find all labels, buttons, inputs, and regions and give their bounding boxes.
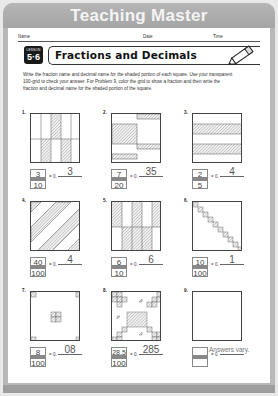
decimal-value: 3 — [58, 167, 82, 177]
lesson-number: 5·6 — [24, 52, 43, 62]
denominator: 10 — [111, 268, 127, 277]
numerator: 40 — [30, 257, 46, 266]
decimal-answer: = 0. 35 — [130, 174, 162, 179]
problem-3: 3. 2 5 = 0. 4 — [184, 110, 264, 200]
problem-4: 4. 40 100 = 0. 4 — [22, 198, 102, 288]
problem-number: 8. — [103, 288, 107, 293]
grid-figure — [193, 202, 242, 251]
decimal-value: 4 — [220, 167, 244, 177]
shaded-square — [111, 113, 161, 163]
problem-number: 6. — [184, 198, 188, 203]
numerator: 7 — [111, 169, 127, 178]
problem-number: 2. — [103, 110, 107, 115]
lesson-badge: LESSON 5·6 — [24, 46, 43, 64]
problem-number: 4. — [22, 198, 26, 203]
problem-9: 9. Answers vary. = 0. — [184, 288, 264, 378]
decimal-value: 4 — [58, 255, 82, 265]
denominator: 100 — [111, 358, 127, 367]
problem-8: 8. 28.5 — [103, 288, 183, 378]
grid-figure — [31, 114, 80, 163]
date-label: Date — [143, 34, 153, 39]
bottom-bar — [3, 385, 275, 393]
shaded-square — [30, 291, 80, 341]
grid-figure — [31, 292, 80, 341]
lesson-label: LESSON — [24, 48, 43, 52]
grid-figure — [193, 114, 242, 163]
decimal-answer: = 0. 1 — [211, 262, 243, 267]
decimal-answer: = 0. — [211, 352, 243, 357]
decimal-value: 35 — [139, 167, 163, 177]
grid-figure — [112, 202, 161, 251]
title-box: Fractions and Decimals — [48, 46, 260, 65]
name-date-time-line: Name Date Time — [18, 33, 260, 42]
problem-number: 5. — [103, 198, 107, 203]
numerator: 8 — [30, 347, 46, 356]
decimal-answer: = 0. 3 — [49, 174, 81, 179]
decimal-answer: = 0. 4 — [49, 262, 81, 267]
denominator: 10 — [30, 180, 46, 189]
problem-number: 1. — [22, 110, 26, 115]
problem-7: 7. 8 100 = 0. 08 — [22, 288, 102, 378]
problem-number: 7. — [22, 288, 26, 293]
problem-6: 6. 10 100 = 0. 1 — [184, 198, 264, 288]
time-label: Time — [213, 34, 223, 39]
denominator-input[interactable] — [192, 358, 208, 367]
denominator: 100 — [192, 268, 208, 277]
problem-1: 1. 3 10 = 0. 3 — [22, 110, 102, 200]
fraction-answer — [192, 347, 208, 367]
decimal-answer: = 0. 08 — [49, 352, 81, 357]
numerator: 3 — [30, 169, 46, 178]
banner-title: Teaching Master — [70, 6, 207, 25]
decimal-answer: = 0. 6 — [130, 262, 162, 267]
decimal-value: 6 — [139, 255, 163, 265]
numerator: 2 — [192, 169, 208, 178]
page-title: Fractions and Decimals — [55, 49, 197, 61]
shaded-square — [111, 291, 161, 341]
numerator: 28.5 — [111, 347, 127, 356]
decimal-answer: = 0. 285 — [130, 352, 162, 357]
fraction-answer: 8 100 — [30, 347, 46, 367]
shaded-square — [192, 201, 242, 251]
problem-number: 3. — [184, 110, 188, 115]
decimal-answer: = 0. 4 — [211, 174, 243, 179]
grid-figure — [112, 292, 161, 341]
fraction-answer: 6 10 — [111, 257, 127, 277]
decimal-value: 1 — [220, 255, 244, 265]
banner: Teaching Master — [3, 3, 275, 28]
problem-5: 5. 6 10 = 0. 6 — [103, 198, 183, 288]
fraction-answer: 40 100 — [30, 257, 46, 277]
problem-2: 2. 7 20 = 0. 35 — [103, 110, 183, 200]
decimal-value: 285 — [139, 345, 163, 355]
fraction-answer: 3 10 — [30, 169, 46, 189]
decimal-input[interactable] — [220, 345, 244, 355]
blank-square[interactable] — [192, 291, 242, 341]
grid-figure — [112, 114, 161, 163]
fraction-answer: 10 100 — [192, 257, 208, 277]
decimal-value: 08 — [58, 345, 82, 355]
denominator: 100 — [30, 358, 46, 367]
instructions: Write the fraction name and decimal name… — [23, 71, 233, 93]
shaded-square — [30, 201, 80, 251]
numerator: 10 — [192, 257, 208, 266]
fraction-answer: 2 5 — [192, 169, 208, 189]
pencil-icon — [228, 43, 258, 67]
grid-figure — [31, 202, 80, 251]
fraction-answer: 7 20 — [111, 169, 127, 189]
denominator: 100 — [30, 268, 46, 277]
fraction-answer: 28.5 100 — [111, 347, 127, 367]
numerator-input[interactable] — [192, 347, 208, 356]
numerator: 6 — [111, 257, 127, 266]
shaded-square — [192, 113, 242, 163]
shaded-square — [111, 201, 161, 251]
denominator: 20 — [111, 180, 127, 189]
problem-number: 9. — [184, 288, 188, 293]
shaded-square — [30, 113, 80, 163]
denominator: 5 — [192, 180, 208, 189]
name-label: Name — [18, 34, 30, 39]
